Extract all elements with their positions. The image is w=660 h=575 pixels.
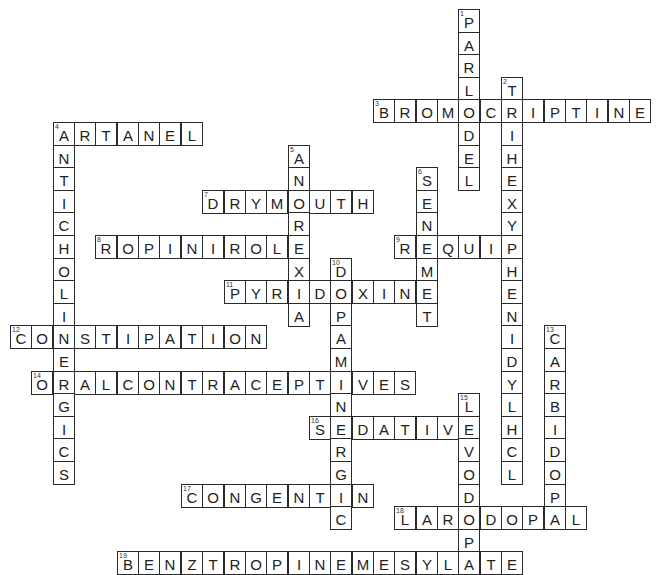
crossword-cell[interactable]: N [138,122,160,146]
crossword-cell[interactable]: I [288,280,310,304]
crossword-cell[interactable]: M [416,258,438,282]
crossword-cell[interactable]: Q [437,235,459,259]
crossword-cell[interactable]: D [480,506,502,530]
crossword-cell[interactable]: H [53,235,75,259]
crossword-cell[interactable]: S [394,371,416,395]
crossword-cell[interactable]: I [53,303,75,327]
crossword-cell[interactable]: R [501,99,523,123]
crossword-cell[interactable]: N [159,551,181,575]
crossword-cell[interactable]: A [330,325,352,349]
crossword-cell[interactable]: N [352,484,374,508]
crossword-cell[interactable]: P [330,303,352,327]
crossword-cell[interactable]: R [394,99,416,123]
crossword-cell[interactable]: O [458,506,480,530]
crossword-cell[interactable]: G [53,393,75,417]
crossword-cell[interactable]: E [416,190,438,214]
crossword-cell[interactable]: 8R [95,235,117,259]
crossword-cell[interactable]: E [501,551,523,575]
crossword-cell[interactable]: P [138,325,160,349]
crossword-cell[interactable]: A [74,371,96,395]
crossword-cell[interactable]: D [544,438,566,462]
crossword-cell[interactable]: M [266,190,288,214]
crossword-cell[interactable]: I [53,416,75,440]
crossword-cell[interactable]: N [501,303,523,327]
crossword-cell[interactable]: N [245,325,267,349]
crossword-cell[interactable]: O [416,99,438,123]
crossword-cell[interactable]: P [288,371,310,395]
crossword-cell[interactable]: E [373,551,395,575]
crossword-cell[interactable]: D [501,348,523,372]
crossword-cell[interactable]: X [352,280,374,304]
crossword-cell[interactable]: N [53,325,75,349]
crossword-cell[interactable]: T [416,303,438,327]
crossword-cell[interactable]: S [53,461,75,485]
crossword-cell[interactable]: T [95,325,117,349]
crossword-cell[interactable]: O [138,371,160,395]
crossword-cell[interactable]: I [159,235,181,259]
crossword-cell[interactable]: T [181,371,203,395]
crossword-cell[interactable]: O [330,280,352,304]
crossword-cell[interactable]: C [53,212,75,236]
crossword-cell[interactable]: E [288,235,310,259]
crossword-cell[interactable]: L [458,77,480,101]
crossword-cell[interactable]: 3B [373,99,395,123]
crossword-cell[interactable]: O [458,461,480,485]
crossword-cell[interactable]: O [544,461,566,485]
crossword-cell[interactable]: A [458,32,480,56]
crossword-cell[interactable]: O [53,258,75,282]
crossword-cell[interactable]: N [224,484,246,508]
crossword-cell[interactable]: I [330,371,352,395]
crossword-cell[interactable]: 16S [309,416,331,440]
crossword-cell[interactable]: O [31,325,53,349]
crossword-cell[interactable]: 15L [458,393,480,417]
crossword-cell[interactable]: A [544,506,566,530]
crossword-cell[interactable]: I [202,325,224,349]
crossword-cell[interactable]: T [181,325,203,349]
crossword-cell[interactable]: P [522,506,544,530]
crossword-cell[interactable]: E [629,99,651,123]
crossword-cell[interactable]: H [501,145,523,169]
crossword-cell[interactable]: C [501,438,523,462]
crossword-cell[interactable]: N [181,235,203,259]
crossword-cell[interactable]: E [138,551,160,575]
crossword-cell[interactable]: I [544,416,566,440]
crossword-cell[interactable]: T [95,122,117,146]
crossword-cell[interactable]: Y [501,371,523,395]
crossword-cell[interactable]: R [202,371,224,395]
crossword-cell[interactable]: T [309,371,331,395]
crossword-cell[interactable]: B [544,393,566,417]
crossword-cell[interactable]: 4A [53,122,75,146]
crossword-cell[interactable]: G [245,484,267,508]
crossword-cell[interactable]: C [117,371,139,395]
crossword-cell[interactable]: S [394,551,416,575]
crossword-cell[interactable]: N [53,145,75,169]
crossword-cell[interactable]: U [309,190,331,214]
crossword-cell[interactable]: O [117,235,139,259]
crossword-cell[interactable]: R [330,438,352,462]
crossword-cell[interactable]: 1P [458,9,480,33]
crossword-cell[interactable]: O [245,551,267,575]
crossword-cell[interactable]: N [330,393,352,417]
crossword-cell[interactable]: I [373,280,395,304]
crossword-cell[interactable]: X [288,258,310,282]
crossword-cell[interactable]: A [288,303,310,327]
crossword-cell[interactable]: 9R [394,235,416,259]
crossword-cell[interactable]: A [373,416,395,440]
crossword-cell[interactable]: M [330,348,352,372]
crossword-cell[interactable]: E [266,371,288,395]
crossword-cell[interactable]: 12C [10,325,32,349]
crossword-cell[interactable]: L [53,280,75,304]
crossword-cell[interactable]: 7D [202,190,224,214]
crossword-cell[interactable]: 5A [288,145,310,169]
crossword-cell[interactable]: U [458,235,480,259]
crossword-cell[interactable]: D [458,122,480,146]
crossword-cell[interactable]: P [544,99,566,123]
crossword-cell[interactable]: R [74,122,96,146]
crossword-cell[interactable]: D [309,280,331,304]
crossword-cell[interactable]: T [202,551,224,575]
crossword-cell[interactable]: L [181,122,203,146]
crossword-cell[interactable]: 10D [330,258,352,282]
crossword-cell[interactable]: N [288,167,310,191]
crossword-cell[interactable]: H [501,258,523,282]
crossword-cell[interactable]: I [202,235,224,259]
